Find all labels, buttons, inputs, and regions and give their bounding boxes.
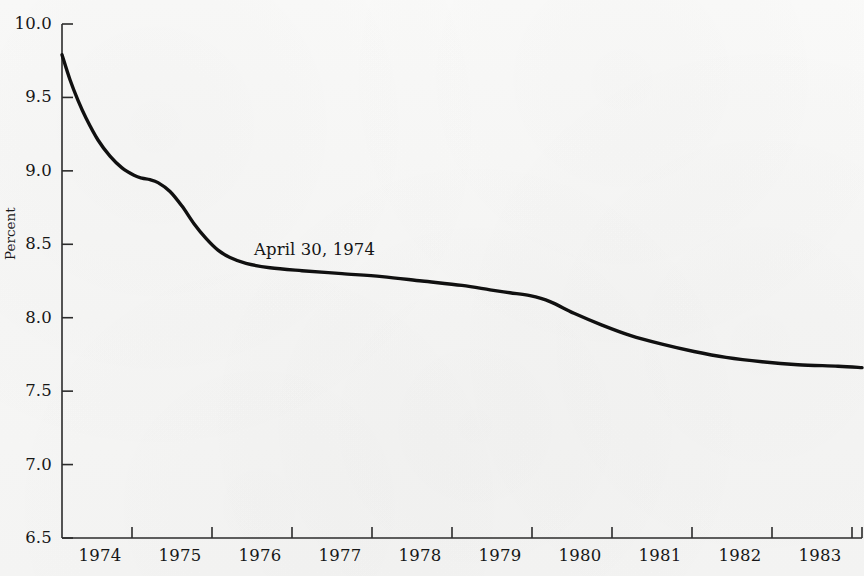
x-tick-label: 1975 <box>145 546 215 565</box>
x-tick-label: 1980 <box>545 546 615 565</box>
curve-annotation: April 30, 1974 <box>254 240 375 259</box>
y-axis-title: Percent <box>2 140 18 260</box>
y-tick-label: 7.0 <box>0 455 52 474</box>
y-tick-label: 7.5 <box>0 381 52 400</box>
data-series-line <box>62 55 862 368</box>
x-tick-label: 1982 <box>705 546 775 565</box>
x-tick-label: 1983 <box>785 546 855 565</box>
x-tick-label: 1981 <box>625 546 695 565</box>
x-tick-label: 1979 <box>465 546 535 565</box>
x-tick-label: 1978 <box>385 546 455 565</box>
y-tick-label: 8.0 <box>0 308 52 327</box>
axis-lines <box>62 24 862 538</box>
y-tick-label: 10.0 <box>0 14 52 33</box>
x-tick-label: 1974 <box>65 546 135 565</box>
x-tick-label: 1976 <box>225 546 295 565</box>
y-tick-label: 9.5 <box>0 87 52 106</box>
y-tick-marks <box>62 24 73 538</box>
x-tick-label: 1977 <box>305 546 375 565</box>
x-tick-marks <box>132 527 862 538</box>
y-tick-label: 6.5 <box>0 528 52 547</box>
chart-figure: 10.09.59.08.58.07.57.06.5 19741975197619… <box>0 0 864 576</box>
plot-area <box>0 0 864 576</box>
